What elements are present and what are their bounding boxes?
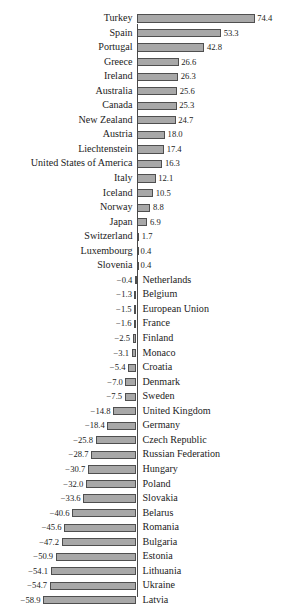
bar-rows-container: Turkey74.4Spain53.3Portugal42.8Greece26.…	[0, 11, 282, 607]
bar-row: Turkey74.4	[0, 11, 282, 26]
category-label: Monaco	[143, 346, 176, 361]
value-label: −33.6	[61, 491, 81, 506]
value-label: 6.9	[150, 215, 161, 230]
value-label: −1.5	[116, 302, 132, 317]
value-label: 42.8	[207, 40, 222, 55]
bar	[137, 116, 176, 124]
category-label: France	[143, 316, 170, 331]
category-label: Canada	[102, 98, 132, 113]
bar-row: Monaco−3.1	[0, 346, 282, 361]
bar	[72, 509, 136, 517]
value-label: −32.0	[63, 477, 83, 492]
value-label: −14.8	[91, 404, 111, 419]
bar-row: Iceland10.5	[0, 186, 282, 201]
category-label: Sweden	[143, 389, 175, 404]
value-label: −0.4	[117, 273, 133, 288]
bar-row: Russian Federation−28.7	[0, 447, 282, 462]
category-label: Australia	[96, 84, 133, 99]
category-label: Turkey	[104, 11, 133, 26]
bar	[125, 393, 137, 401]
category-label: Austria	[103, 127, 133, 142]
bar	[91, 451, 137, 459]
value-label: −5.4	[110, 360, 126, 375]
bar	[50, 582, 137, 590]
bar	[137, 160, 163, 168]
value-label: 18.0	[168, 127, 183, 142]
bar-row: Poland−32.0	[0, 477, 282, 492]
bar	[128, 364, 137, 372]
bar-row: Latvia−58.9	[0, 593, 282, 607]
value-label: −2.5	[114, 331, 130, 346]
bar-row: United Kingdom−14.8	[0, 404, 282, 419]
value-label: −40.6	[50, 506, 70, 521]
bar-row: Slovenia0.4	[0, 258, 282, 273]
value-label: 8.8	[153, 200, 164, 215]
category-label: Poland	[143, 477, 171, 492]
category-label: Slovenia	[97, 258, 132, 273]
category-label: Italy	[114, 171, 133, 186]
category-label: Czech Republic	[143, 433, 207, 448]
value-label: 26.3	[181, 69, 196, 84]
bar	[137, 73, 179, 81]
category-label: Liechtenstein	[78, 142, 132, 157]
bar-chart: Turkey74.4Spain53.3Portugal42.8Greece26.…	[0, 11, 282, 597]
bar-row: Estonia−50.9	[0, 549, 282, 564]
category-label: Belarus	[143, 506, 174, 521]
bar	[137, 14, 255, 22]
bar-row: Norway8.8	[0, 200, 282, 215]
bar	[56, 553, 137, 561]
category-label: Croatia	[143, 360, 173, 375]
bar	[137, 145, 165, 153]
category-label: Japan	[110, 215, 133, 230]
category-label: Slovakia	[143, 491, 178, 506]
value-label: 1.7	[142, 229, 153, 244]
bar-row: Spain53.3	[0, 26, 282, 41]
category-label: Portugal	[98, 40, 132, 55]
category-label: Ukraine	[143, 578, 176, 593]
category-label: Romania	[143, 520, 179, 535]
bar	[83, 494, 136, 502]
category-label: Bulgaria	[143, 535, 178, 550]
bar	[86, 480, 137, 488]
bar-row: Romania−45.6	[0, 520, 282, 535]
category-label: Belgium	[143, 287, 178, 302]
category-label: New Zealand	[78, 113, 132, 128]
zero-axis-line	[137, 24, 138, 597]
category-label: United Kingdom	[143, 404, 211, 419]
bar-row: Liechtenstein17.4	[0, 142, 282, 157]
bar	[137, 131, 166, 139]
bar-row: Ireland26.3	[0, 69, 282, 84]
bar-row: Finland−2.5	[0, 331, 282, 346]
value-label: −50.9	[33, 549, 53, 564]
value-label: −1.6	[116, 316, 132, 331]
bar	[96, 436, 137, 444]
value-label: −7.5	[107, 389, 123, 404]
bar	[137, 204, 151, 212]
category-label: Norway	[100, 200, 133, 215]
value-label: 12.1	[158, 171, 173, 186]
bar-row: Greece26.6	[0, 55, 282, 70]
bar-row: Lithuania−54.1	[0, 564, 282, 579]
bar	[137, 102, 177, 110]
bar	[137, 87, 178, 95]
category-label: Lithuania	[143, 564, 182, 579]
value-label: −58.9	[21, 593, 41, 607]
bar-row: Belgium−1.3	[0, 287, 282, 302]
category-label: Switzerland	[84, 229, 132, 244]
category-label: European Union	[143, 302, 209, 317]
bar	[137, 58, 179, 66]
bar-row: Czech Republic−25.8	[0, 433, 282, 448]
category-label: Russian Federation	[143, 447, 221, 462]
bar-row: Portugal42.8	[0, 40, 282, 55]
value-label: 24.7	[178, 113, 193, 128]
category-label: Denmark	[143, 375, 181, 390]
bar-row: Croatia−5.4	[0, 360, 282, 375]
value-label: 53.3	[224, 26, 239, 41]
cropped-title-remnant	[0, 0, 282, 11]
category-label: Germany	[143, 418, 181, 433]
value-label: −25.8	[73, 433, 93, 448]
bar-row: Canada25.3	[0, 98, 282, 113]
value-label: −18.4	[85, 418, 105, 433]
category-label: Latvia	[143, 593, 169, 607]
bar	[137, 218, 148, 226]
